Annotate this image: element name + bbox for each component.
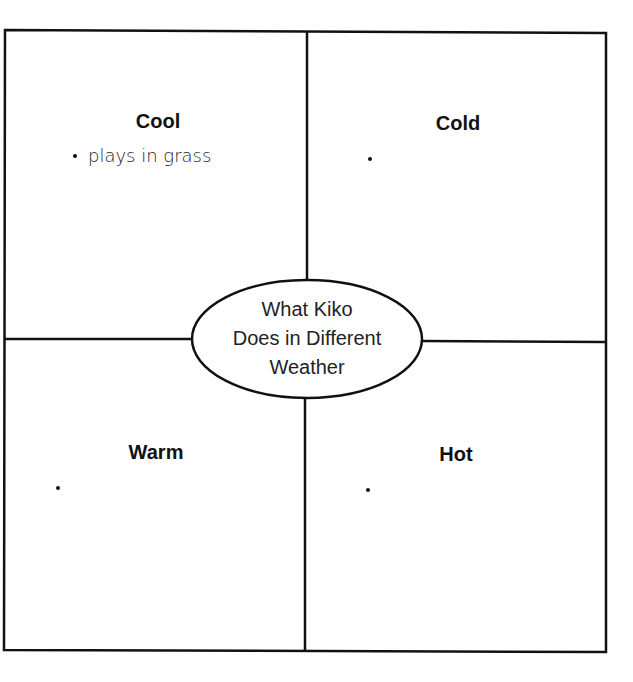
quadrant-heading-cold: Cold	[436, 112, 480, 135]
bullet-icon	[368, 157, 372, 161]
bullet-icon	[73, 154, 77, 158]
bullet-text-cool: plays in grass	[88, 145, 211, 166]
center-topic-line-3: Weather	[233, 353, 382, 382]
bullet-item-cool: plays in grass	[73, 145, 211, 167]
center-topic-line-2: Does in Different	[233, 324, 382, 353]
quadrant-heading-warm: Warm	[129, 441, 184, 464]
horizontal-divider-right	[422, 341, 606, 342]
bullet-icon	[366, 488, 370, 492]
center-topic: What Kiko Does in Different Weather	[192, 278, 422, 398]
bullet-icon	[56, 486, 60, 490]
bullet-item-warm	[56, 477, 71, 499]
quadrant-heading-cool: Cool	[136, 110, 180, 133]
bullet-item-hot	[366, 479, 381, 501]
quadrant-heading-hot: Hot	[439, 443, 472, 466]
center-topic-line-1: What Kiko	[233, 295, 382, 324]
bullet-item-cold	[368, 148, 383, 170]
